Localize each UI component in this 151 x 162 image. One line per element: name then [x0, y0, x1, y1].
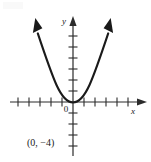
parabola-right-arrowhead — [104, 18, 114, 33]
y-axis-label: y — [61, 16, 66, 26]
graph-figure: x y 0 (0, −4) — [0, 0, 151, 162]
x-axis-arrowhead — [137, 98, 147, 105]
y-axis-arrowhead — [69, 16, 76, 26]
origin-label: 0 — [64, 104, 69, 114]
coordinate-plane: x y 0 (0, −4) — [0, 0, 151, 162]
parabola-left-arrowhead — [33, 18, 43, 33]
vertex-label: (0, −4) — [27, 137, 54, 149]
x-axis-label: x — [130, 106, 135, 116]
